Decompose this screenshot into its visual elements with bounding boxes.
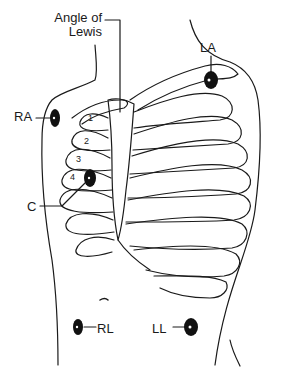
torso-outline-left (42, 45, 97, 365)
la-label: LA (200, 41, 216, 54)
angle-of-lewis-line1: Angle of (30, 11, 102, 25)
torso-outline-right (190, 20, 260, 365)
angle-of-lewis-leader (105, 20, 120, 112)
rib-number-3: 3 (76, 154, 81, 164)
ecg-lead-placement-diagram: Angle of Lewis LA RA C RL LL 1 2 3 4 (0, 0, 281, 367)
rib-number-4: 4 (70, 172, 75, 182)
angle-of-lewis-label: Angle of Lewis (30, 11, 102, 39)
torso-illustration (0, 0, 281, 367)
rl-label: RL (97, 322, 114, 335)
ll-label: LL (152, 322, 166, 335)
electrode-la (204, 71, 218, 89)
sternum (108, 99, 134, 240)
c-label: C (27, 200, 36, 213)
rib-number-2: 2 (84, 136, 89, 146)
rib-number-1: 1 (88, 113, 93, 123)
angle-of-lewis-line2: Lewis (30, 25, 102, 39)
ra-label: RA (14, 110, 32, 123)
